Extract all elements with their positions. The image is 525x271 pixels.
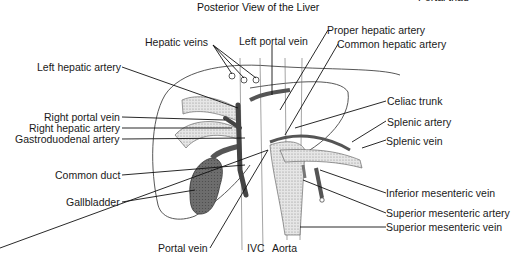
label-left-hepatic-artery: Left hepatic artery	[37, 61, 121, 73]
corner-label: Portal triad	[418, 0, 469, 3]
label-splenic-vein: Splenic vein	[386, 135, 443, 147]
label-aorta: Aorta	[272, 242, 297, 254]
label-common-duct: Common duct	[55, 169, 120, 181]
label-gallbladder: Gallbladder	[66, 196, 120, 208]
label-inferior-mesenteric-vein: Inferior mesenteric vein	[386, 187, 495, 199]
gallbladder-shape	[190, 158, 223, 214]
label-superior-mesenteric-artery: Superior mesenteric artery	[386, 207, 510, 219]
label-hepatic-veins: Hepatic veins	[145, 36, 208, 48]
diagram-title: Posterior View of the Liver	[197, 1, 319, 13]
label-proper-hepatic-artery: Proper hepatic artery	[327, 24, 425, 36]
label-common-hepatic-artery: Common hepatic artery	[337, 38, 446, 50]
label-superior-mesenteric-vein: Superior mesenteric vein	[386, 221, 502, 233]
label-celiac-trunk: Celiac trunk	[387, 95, 442, 107]
label-splenic-artery: Splenic artery	[387, 116, 451, 128]
right-portal-branch	[182, 97, 240, 122]
label-left-portal-vein: Left portal vein	[239, 35, 308, 47]
label-ivc: IVC	[247, 242, 265, 254]
label-gastroduodenal-artery: Gastroduodenal artery	[15, 133, 119, 145]
label-portal-vein: Portal vein	[158, 242, 208, 254]
